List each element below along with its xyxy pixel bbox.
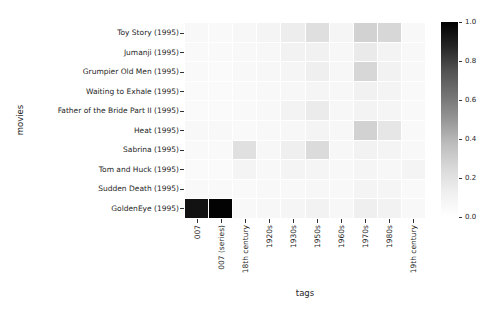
heatmap-cell — [233, 160, 256, 179]
heatmap-cell — [330, 101, 353, 120]
heatmap-cell — [185, 82, 208, 101]
heatmap-cell — [281, 141, 304, 160]
heatmap-cell — [281, 62, 304, 81]
heatmap-cell — [306, 199, 329, 218]
heatmap-cell — [378, 180, 401, 199]
heatmap-cell — [306, 43, 329, 62]
y-tick-label: GoldenEye (1995) — [0, 203, 179, 214]
heatmap-cell — [233, 101, 256, 120]
heatmap-cell — [281, 23, 304, 42]
heatmap-cell — [378, 121, 401, 140]
heatmap-cell — [330, 180, 353, 199]
heatmap-cell — [354, 180, 377, 199]
heatmap-cell — [257, 180, 280, 199]
heatmap-cell — [330, 43, 353, 62]
heatmap-cell — [354, 62, 377, 81]
heatmap-cell — [281, 101, 304, 120]
heatmap-cell — [306, 101, 329, 120]
heatmap-cell — [306, 180, 329, 199]
heatmap-cell — [209, 62, 232, 81]
x-tick-label: 1950s — [313, 225, 322, 248]
heatmap-cell — [330, 23, 353, 42]
heatmap-cell — [185, 101, 208, 120]
y-tick-label: Sudden Death (1995) — [0, 183, 179, 194]
x-tick-mark — [341, 219, 342, 223]
heatmap-cell — [378, 101, 401, 120]
heatmap-cell — [281, 160, 304, 179]
heatmap-cell — [306, 23, 329, 42]
heatmap-cell — [402, 160, 425, 179]
x-tick-label: 1980s — [385, 225, 394, 248]
heatmap-cell — [306, 82, 329, 101]
heatmap-cell — [378, 199, 401, 218]
heatmap-cell — [209, 141, 232, 160]
heatmap-cell — [354, 160, 377, 179]
heatmap-cell — [233, 23, 256, 42]
heatmap-cell — [233, 62, 256, 81]
heatmap-cell — [378, 62, 401, 81]
heatmap-cell — [354, 199, 377, 218]
x-tick-mark — [317, 219, 318, 223]
y-tick-label: Toy Story (1995) — [0, 27, 179, 38]
heatmap-cell — [233, 141, 256, 160]
heatmap-cell — [185, 141, 208, 160]
heatmap-cell — [378, 82, 401, 101]
heatmap-cell — [378, 160, 401, 179]
heatmap-cell — [330, 199, 353, 218]
heatmap-cell — [281, 180, 304, 199]
y-tick-mark — [180, 208, 184, 209]
heatmap-cell — [209, 101, 232, 120]
heatmap-cell — [402, 23, 425, 42]
y-tick-mark — [180, 91, 184, 92]
heatmap-cell — [185, 43, 208, 62]
heatmap-cell — [233, 199, 256, 218]
x-tick-label: 1970s — [361, 225, 370, 248]
heatmap-cell — [402, 141, 425, 160]
colorbar-tick-mark — [459, 178, 462, 179]
heatmap-cell — [354, 121, 377, 140]
heatmap-cell — [306, 141, 329, 160]
heatmap-cell — [330, 82, 353, 101]
heatmap-cell — [402, 62, 425, 81]
colorbar-tick-mark — [459, 139, 462, 140]
heatmap-cell — [233, 121, 256, 140]
heatmap-cell — [306, 160, 329, 179]
colorbar-tick-label: 0.8 — [465, 57, 476, 66]
x-tick-label: 18th century — [241, 225, 250, 273]
heatmap-cell — [306, 62, 329, 81]
x-tick-mark — [365, 219, 366, 223]
y-tick-mark — [180, 130, 184, 131]
heatmap-cell — [185, 121, 208, 140]
heatmap-cell — [257, 101, 280, 120]
heatmap-cell — [185, 62, 208, 81]
y-tick-label: Heat (1995) — [0, 125, 179, 136]
y-tick-mark — [180, 150, 184, 151]
heatmap-cell — [185, 160, 208, 179]
y-axis-title: movies — [15, 105, 25, 136]
colorbar-tick-label: 0.2 — [465, 174, 476, 183]
colorbar-gradient — [441, 22, 458, 217]
y-tick-mark — [180, 169, 184, 170]
heatmap-grid — [185, 23, 425, 218]
x-tick-label: 007 — [193, 225, 202, 239]
y-tick-label: Sabrina (1995) — [0, 144, 179, 155]
y-tick-label: Grumpier Old Men (1995) — [0, 66, 179, 77]
x-tick-label: 1930s — [289, 225, 298, 248]
heatmap-cell — [402, 82, 425, 101]
heatmap-cell — [281, 82, 304, 101]
y-tick-mark — [180, 52, 184, 53]
heatmap-cell — [330, 141, 353, 160]
x-tick-label: 19th century — [409, 225, 418, 273]
heatmap-cell — [354, 101, 377, 120]
heatmap-cell — [306, 121, 329, 140]
heatmap-cell — [354, 43, 377, 62]
heatmap-figure: Toy Story (1995)Jumanji (1995)Grumpier O… — [0, 0, 491, 311]
x-tick-mark — [221, 219, 222, 223]
x-tick-mark — [389, 219, 390, 223]
x-tick-mark — [293, 219, 294, 223]
x-tick-mark — [245, 219, 246, 223]
heatmap-cell — [209, 180, 232, 199]
heatmap-cell — [257, 23, 280, 42]
heatmap-cell — [257, 141, 280, 160]
x-axis-title: tags — [296, 288, 314, 298]
